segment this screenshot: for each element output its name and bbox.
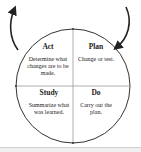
do-description: Carry out the plan. (76, 102, 116, 116)
study-title: Study (28, 88, 70, 97)
quadrant-plan: Plan Change or test. (76, 42, 116, 63)
left-arrow-icon (11, 10, 18, 50)
plan-description: Change or test. (76, 56, 116, 63)
quadrant-study: Study Summarize what was learned. (28, 88, 70, 116)
act-description: Determine what changes are to be made. (24, 56, 72, 77)
do-title: Do (76, 88, 116, 97)
bottom-divider (0, 147, 141, 152)
quadrant-do: Do Carry out the plan. (76, 88, 116, 116)
right-arrow-icon (117, 7, 129, 47)
quadrant-act: Act Determine what changes are to be mad… (24, 42, 72, 77)
act-title: Act (24, 42, 72, 51)
plan-title: Plan (76, 42, 116, 51)
study-description: Summarize what was learned. (28, 102, 70, 116)
